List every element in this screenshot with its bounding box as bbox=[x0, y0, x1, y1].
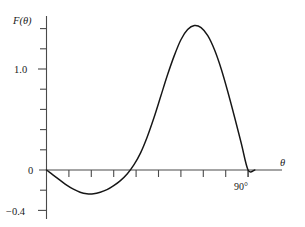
y-axis-ticks bbox=[38, 29, 47, 211]
x-tick-label-90deg: 90° bbox=[234, 181, 248, 192]
plot-area: F(θ) θ 1.0 0 −0.4 90° bbox=[0, 0, 305, 227]
y-tick-label-neg-0.4: −0.4 bbox=[6, 206, 26, 217]
x-axis-ticks bbox=[69, 170, 248, 177]
y-tick-label-0: 0 bbox=[28, 165, 33, 176]
x-axis-title: θ bbox=[280, 157, 285, 168]
y-tick-label-1.0: 1.0 bbox=[14, 64, 27, 75]
data-curve-F-theta bbox=[47, 25, 255, 193]
y-axis-title: F(θ) bbox=[12, 15, 32, 27]
chart-figure: F(θ) θ 1.0 0 −0.4 90° bbox=[0, 0, 305, 227]
